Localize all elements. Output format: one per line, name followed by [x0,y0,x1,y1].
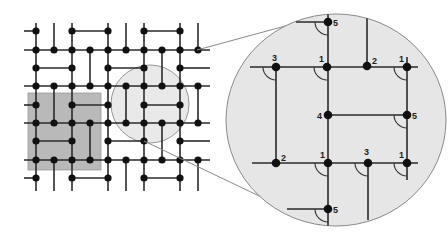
grid-node [32,27,39,34]
node-degree-label: 5 [333,18,338,28]
node-degree-label: 1 [319,54,324,64]
grid-node [104,46,111,53]
grid-node [122,82,129,89]
node-degree-label: 1 [320,150,325,160]
grid-node [32,82,39,89]
grid-node [140,46,147,53]
grid-node [158,156,165,163]
grid-node [68,156,75,163]
magnified-node [364,159,373,168]
grid-node [68,46,75,53]
grid-node [50,46,57,53]
grid-node [32,101,39,108]
grid-node [140,156,147,163]
grid-node [194,82,201,89]
node-degree-label: 3 [272,53,277,63]
grid-node [68,137,75,144]
node-degree-label: 5 [333,205,338,215]
grid-node [50,82,57,89]
node-degree-label: 4 [317,111,322,121]
grid-node [140,119,147,126]
grid-node [68,82,75,89]
grid-node [140,82,147,89]
node-degree-label: 2 [372,56,377,66]
grid-node [68,101,75,108]
grid-node [32,174,39,181]
grid-node [140,101,147,108]
grid-node [104,137,111,144]
magnified-node [403,111,412,120]
grid-node [68,174,75,181]
grid-node [176,101,183,108]
grid-node [104,174,111,181]
grid-node [122,119,129,126]
grid-node [176,82,183,89]
grid-node [32,156,39,163]
grid-node [158,119,165,126]
grid-node [122,156,129,163]
magnified-node [324,111,333,120]
grid-node [104,101,111,108]
grid-node [122,46,129,53]
grid-node [68,119,75,126]
grid-node [176,46,183,53]
grid-node [158,46,165,53]
grid-node [68,27,75,34]
grid-node [32,64,39,71]
grid-node [68,64,75,71]
node-degree-label: 1 [399,150,404,160]
node-degree-label: 3 [364,147,369,157]
grid-node [32,137,39,144]
grid-node [86,156,93,163]
grid-node [50,156,57,163]
magnified-node [272,159,281,168]
grid-node [176,174,183,181]
grid-node [140,27,147,34]
grid-node [140,174,147,181]
node-degree-label: 1 [399,54,404,64]
grid-node [86,119,93,126]
grid-node [176,27,183,34]
grid-node [194,156,201,163]
grid-node [140,64,147,71]
grid-node [50,119,57,126]
grid-node [104,64,111,71]
magnifier-view: 531214521315 [226,14,446,226]
node-degree-label: 2 [281,153,286,163]
grid-node [32,46,39,53]
magnified-node [272,63,281,72]
grid-node [194,119,201,126]
grid-node [104,82,111,89]
grid-node [176,64,183,71]
node-degree-label: 5 [412,111,417,121]
magnified-node [363,62,372,71]
grid-node [104,156,111,163]
grid-node [104,119,111,126]
grid-node [176,119,183,126]
grid-node [86,46,93,53]
grid-network-diagram: 531214521315 [0,0,448,239]
magnified-node [324,205,333,214]
grid-node [86,82,93,89]
grid-node [158,82,165,89]
grid-node [32,119,39,126]
grid-node [176,137,183,144]
magnified-node [324,18,333,27]
grid-node [104,27,111,34]
